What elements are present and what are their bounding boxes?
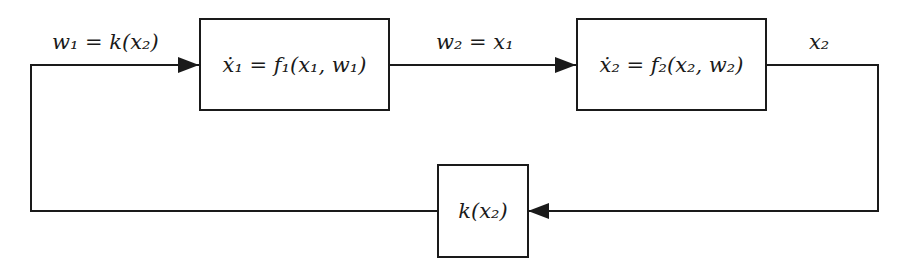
- feedback-k-block: k(x₂): [437, 164, 529, 258]
- subsystem-1-equation: ẋ₁ = f₁(x₁, w₁): [223, 53, 367, 77]
- subsystem-2-block: ẋ₂ = f₂(x₂, w₂): [576, 18, 767, 111]
- signal-w1-label: w₁ = k(x₂): [52, 30, 159, 54]
- feedback-k-label: k(x₂): [458, 199, 507, 223]
- arrowhead-w2-icon: [555, 57, 576, 73]
- subsystem-1-block: ẋ₁ = f₁(x₁, w₁): [199, 18, 390, 111]
- arrowhead-w1-icon: [178, 57, 199, 73]
- signal-w2-label: w₂ = x₁: [436, 30, 514, 54]
- subsystem-2-equation: ẋ₂ = f₂(x₂, w₂): [600, 53, 744, 77]
- signal-x2-label: x₂: [809, 30, 829, 54]
- block-diagram: ẋ₁ = f₁(x₁, w₁) ẋ₂ = f₂(x₂, w₂) k(x₂) w₁…: [0, 0, 902, 272]
- arrowhead-x2-icon: [528, 203, 549, 219]
